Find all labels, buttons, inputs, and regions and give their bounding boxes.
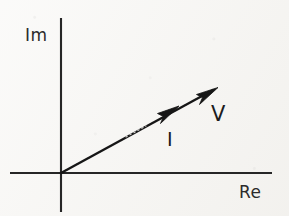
voltage-phasor-label: V (211, 104, 225, 125)
current-phasor-arrowhead (158, 106, 180, 124)
phasor-diagram-figure: Im Re V I (0, 0, 289, 216)
voltage-phasor-shaft (61, 90, 213, 173)
imaginary-axis-label: Im (25, 27, 48, 44)
real-axis-label: Re (239, 184, 262, 201)
current-phasor-label: I (167, 130, 173, 149)
